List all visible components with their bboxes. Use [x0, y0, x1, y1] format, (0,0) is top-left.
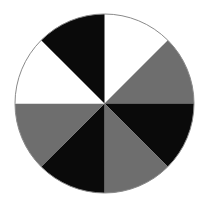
- pie-slice-group: [15, 14, 194, 193]
- sector-disc-chart: [0, 0, 209, 211]
- figure-root: [0, 0, 209, 211]
